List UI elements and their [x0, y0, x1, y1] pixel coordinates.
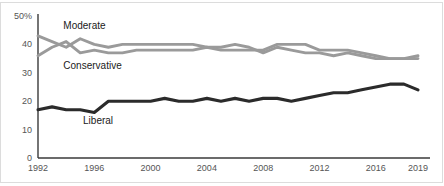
y-axis-tick-10: 10: [6, 125, 32, 135]
series-line-moderate: [38, 36, 418, 59]
plot-area: 01020304050% 199219962000200420082012201…: [0, 0, 444, 186]
x-axis-tick-1992: 1992: [18, 163, 58, 173]
axes-group: [38, 14, 430, 158]
series-group: [38, 36, 418, 113]
x-axis-tick-2008: 2008: [243, 163, 283, 173]
x-axis-tick-2019: 2019: [398, 163, 438, 173]
y-axis-tick-30: 30: [6, 68, 32, 78]
x-axis-tick-1996: 1996: [74, 163, 114, 173]
x-axis-tick-2012: 2012: [299, 163, 339, 173]
x-axis-tick-2000: 2000: [131, 163, 171, 173]
series-label-moderate: Moderate: [63, 20, 105, 31]
series-line-liberal: [38, 84, 418, 112]
x-axis-tick-2016: 2016: [356, 163, 396, 173]
y-axis-tick-50pct: 50%: [6, 11, 32, 21]
chart-container: 01020304050% 199219962000200420082012201…: [0, 0, 444, 186]
y-axis-tick-20: 20: [6, 96, 32, 106]
y-axis-tick-0: 0: [6, 153, 32, 163]
y-axis-tick-40: 40: [6, 39, 32, 49]
series-label-conservative: Conservative: [63, 60, 121, 71]
x-axis-tick-2004: 2004: [187, 163, 227, 173]
series-label-liberal: Liberal: [83, 115, 113, 126]
